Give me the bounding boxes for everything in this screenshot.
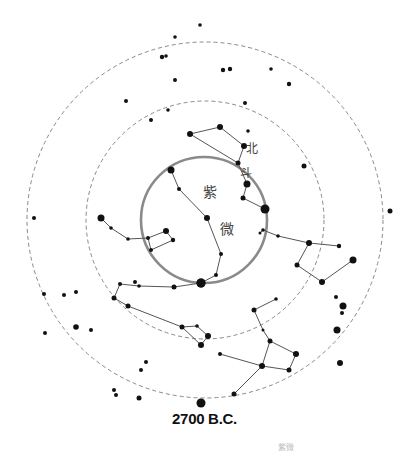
star [187,131,193,137]
label-bei: 北 [246,142,258,156]
star [118,282,122,286]
star [217,124,223,130]
constellation-line [278,236,309,243]
constellation-line [220,354,262,366]
star [334,327,341,334]
star [112,296,117,301]
star [262,329,265,332]
star [302,164,307,169]
star [228,67,232,71]
star [276,234,280,238]
star [149,248,153,252]
star [171,238,175,242]
star-chart: 北 斗 紫 微 [0,0,409,454]
constellation-line [111,228,128,239]
star [259,363,265,369]
star [269,67,273,71]
star [89,328,93,332]
star [287,82,291,86]
star [124,99,128,103]
star [112,388,116,392]
constellation-lines [101,127,353,394]
constellation-line [262,341,270,366]
star [261,205,270,214]
star [126,237,130,241]
star [139,368,143,372]
star [74,290,78,294]
star [109,226,113,230]
star [319,279,325,285]
star [126,304,131,309]
star [388,209,393,214]
star [244,181,251,188]
star [180,325,185,330]
star [274,297,278,301]
star [221,68,225,72]
star [246,129,250,133]
star [293,351,299,357]
star [168,167,175,174]
star [252,308,257,313]
constellation-line [216,254,221,275]
constellation-line [182,327,201,345]
constellation-line [190,127,220,134]
star [149,118,153,122]
constellation-line [220,127,244,146]
star [205,333,211,339]
star [172,285,177,290]
star [198,23,202,27]
star [218,352,222,356]
star [337,244,341,248]
star [164,54,168,58]
star [268,339,273,344]
star [295,263,300,268]
star [195,324,199,328]
star [334,295,338,299]
constellation-line [322,260,353,282]
star [137,284,141,288]
constellation-line [270,341,296,354]
star [232,392,237,397]
star [261,228,265,232]
constellation-line [254,310,263,330]
faint-footer-text: 紫微 [278,441,294,452]
star [219,252,223,256]
constellation-line [207,218,221,254]
star [43,331,47,335]
label-wei: 微 [220,221,234,237]
label-dou: 斗 [240,166,252,180]
star [32,216,36,220]
star [163,228,169,234]
star [306,240,312,246]
constellation-line [254,299,276,310]
star [197,399,206,408]
constellation-line [309,243,339,246]
star [214,273,218,277]
star [177,187,181,191]
star [337,360,343,366]
epoch-title: 2700 B.C. [0,410,409,427]
star [42,292,46,296]
star [173,35,177,39]
constellation-line [151,240,173,250]
star [340,311,344,315]
constellation-line [297,243,309,265]
star [98,215,105,222]
constellation-line [262,366,289,370]
constellation-line [139,286,174,287]
star [146,236,150,240]
constellation-line [120,284,139,286]
star [62,293,66,297]
star [137,396,142,401]
star [114,393,118,397]
star [198,342,204,348]
star [197,279,206,288]
star [259,232,262,235]
star [73,324,79,330]
star [340,303,347,310]
star [241,196,246,201]
constellation-line [297,265,322,282]
star [166,108,170,112]
star [204,215,210,221]
star [287,368,292,373]
